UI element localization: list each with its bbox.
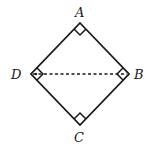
right-angle-marker-a — [74, 29, 86, 35]
square-diagram: A B C D — [0, 0, 153, 149]
vertex-label-d: D — [10, 67, 22, 82]
vertex-label-b: B — [133, 67, 144, 82]
vertex-label-a: A — [74, 5, 84, 20]
marker-dot-d — [35, 73, 37, 75]
right-angle-marker-c — [74, 113, 86, 119]
vertex-label-c: C — [74, 130, 84, 145]
